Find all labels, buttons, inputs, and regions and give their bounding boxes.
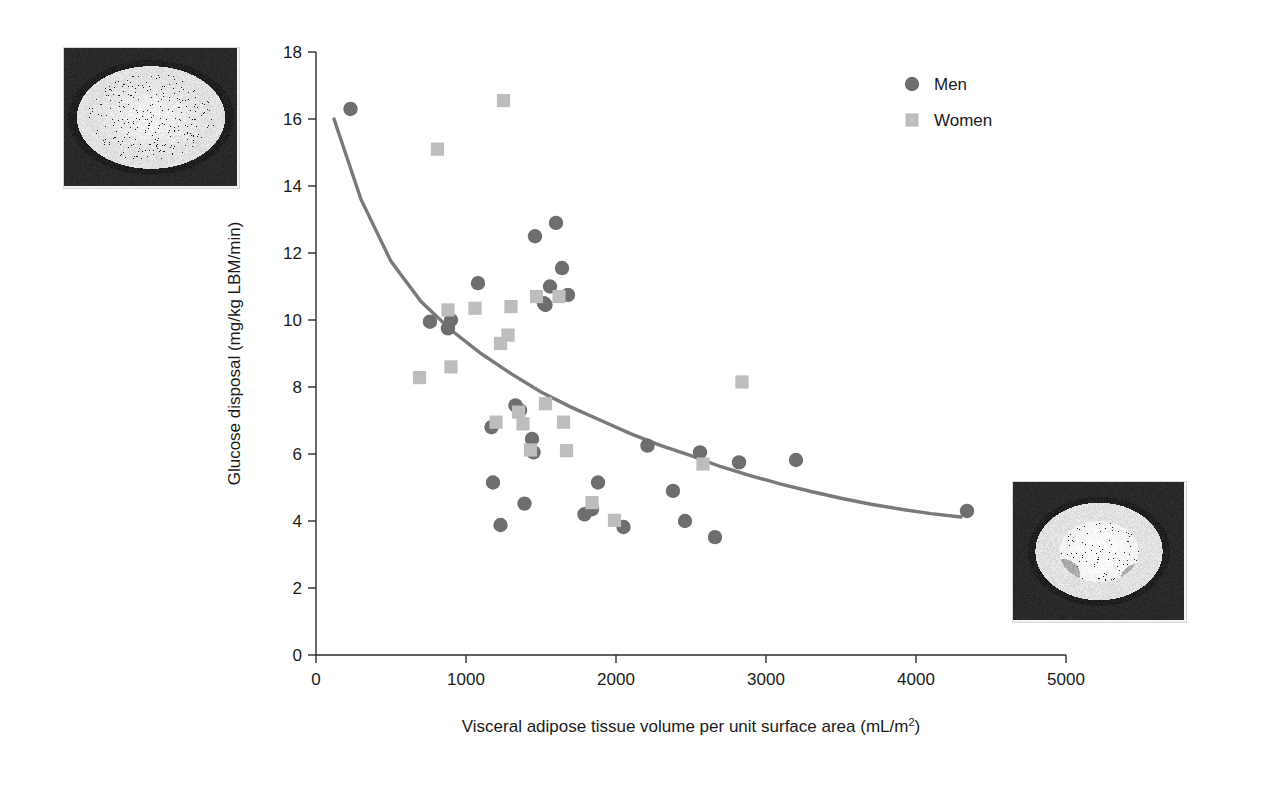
data-point-men [471,276,485,290]
data-point-men [528,229,542,243]
data-point-men [423,314,437,328]
y-tick-label: 10 [283,311,302,330]
legend: MenWomen [905,75,992,130]
data-point-men [960,504,974,518]
data-point-men [666,484,680,498]
legend-marker-women [905,113,918,126]
axis-layer [308,52,1066,663]
x-tick-label: 0 [311,670,320,689]
data-point-men [591,475,605,489]
legend-marker-men [905,77,919,91]
y-tick-label: 0 [293,646,302,665]
data-point-women [539,397,552,410]
y-tick-label: 12 [283,244,302,263]
data-point-women [501,328,514,341]
data-point-women [608,514,621,527]
data-point-women [552,290,565,303]
data-point-men [343,102,357,116]
legend-label-women: Women [934,111,992,130]
data-point-men [486,475,500,489]
legend-label-men: Men [934,75,967,94]
data-point-men [640,438,654,452]
y-tick-label: 4 [293,512,302,531]
data-point-women [696,457,709,470]
y-tick-label: 6 [293,445,302,464]
y-tick-label: 2 [293,579,302,598]
data-point-women [441,303,454,316]
data-point-men [708,530,722,544]
data-point-women [504,300,517,313]
y-axis-title: Glucose disposal (mg/kg LBM/min) [225,222,244,486]
x-tick-label: 3000 [747,670,785,689]
x-tick-label: 5000 [1047,670,1085,689]
x-tick-label: 2000 [597,670,635,689]
data-point-men [678,514,692,528]
data-point-men [493,518,507,532]
data-point-women [516,417,529,430]
y-tick-label: 18 [283,43,302,62]
data-point-men [517,496,531,510]
y-tick-label: 16 [283,110,302,129]
series-men [343,102,974,545]
data-point-women [444,360,457,373]
x-axis-title: Visceral adipose tissue volume per unit … [462,716,920,736]
data-point-men [732,455,746,469]
data-point-women [530,290,543,303]
data-point-men [789,453,803,467]
y-tick-label: 8 [293,378,302,397]
data-point-women [560,444,573,457]
data-point-women [497,94,510,107]
data-point-women [468,302,481,315]
data-point-women [585,496,598,509]
axis-label-layer: 024681012141618010002000300040005000Visc… [225,43,1085,736]
data-point-men [549,216,563,230]
data-point-women [524,443,537,456]
data-point-women [512,406,525,419]
figure-container: 024681012141618010002000300040005000Visc… [0,0,1282,789]
data-point-women [557,416,570,429]
data-point-women [489,416,502,429]
data-point-women [413,371,426,384]
x-tick-label: 1000 [447,670,485,689]
x-tick-label: 4000 [897,670,935,689]
data-point-women [431,143,444,156]
data-point-men [555,261,569,275]
data-point-men [693,445,707,459]
data-point-women [735,375,748,388]
series-women [413,94,749,527]
abdominal-mri-low-visceral-fat [1012,481,1187,623]
abdominal-mri-high-visceral-fat [63,47,240,189]
y-tick-label: 14 [283,177,302,196]
